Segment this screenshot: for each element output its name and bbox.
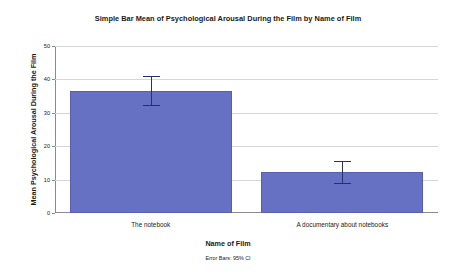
- y-axis-tick-label: 10: [44, 177, 50, 183]
- error-bar-cap-bottom: [334, 183, 351, 184]
- bar-chart: Simple Bar Mean of Psychological Arousal…: [0, 0, 456, 277]
- y-axis-tick-mark: [52, 79, 55, 80]
- error-bar: [342, 161, 343, 184]
- y-axis-tick-label: 50: [44, 43, 50, 49]
- y-axis-tick-mark: [52, 213, 55, 214]
- y-axis-tick-label: 30: [44, 110, 50, 116]
- y-axis-tick-mark: [52, 113, 55, 114]
- y-axis-tick-label: 20: [44, 143, 50, 149]
- y-axis-tick-mark: [52, 180, 55, 181]
- gridline: [55, 46, 438, 47]
- error-bar-footnote: Error Bars: 95% CI: [0, 255, 456, 261]
- error-bar: [151, 76, 152, 106]
- y-axis-tick-label: 0: [47, 210, 50, 216]
- error-bar-cap-top: [334, 161, 351, 162]
- plot-area: 01020304050: [55, 46, 438, 213]
- error-bar-cap-bottom: [143, 105, 160, 106]
- y-axis-tick-mark: [52, 146, 55, 147]
- x-axis-title: Name of Film: [0, 239, 456, 248]
- bar: [70, 91, 232, 213]
- y-axis-title: Mean Psychological Arousal During the Fi…: [27, 46, 40, 213]
- x-axis-category-label: A documentary about notebooks: [296, 221, 388, 228]
- y-axis-tick-mark: [52, 46, 55, 47]
- gridline: [55, 79, 438, 80]
- error-bar-cap-top: [143, 76, 160, 77]
- x-axis-category-label: The notebook: [131, 221, 170, 228]
- y-axis-line: [55, 46, 56, 213]
- y-axis-tick-label: 40: [44, 76, 50, 82]
- chart-title: Simple Bar Mean of Psychological Arousal…: [0, 14, 456, 23]
